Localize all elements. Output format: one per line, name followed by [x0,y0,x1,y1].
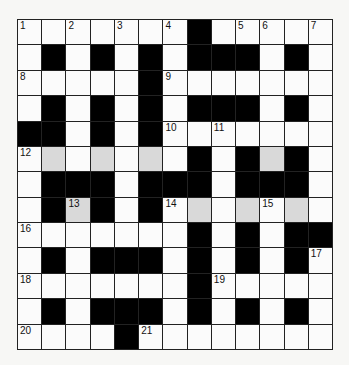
shaded-cell[interactable] [188,198,211,222]
answer-cell[interactable] [115,172,138,196]
answer-cell[interactable] [66,147,89,171]
answer-cell[interactable] [260,248,283,272]
answer-cell[interactable] [66,96,89,120]
answer-cell[interactable] [309,71,332,95]
answer-cell[interactable]: 9 [163,71,186,95]
answer-cell[interactable] [285,325,308,349]
answer-cell[interactable] [91,274,114,298]
answer-cell[interactable] [163,223,186,247]
answer-cell[interactable] [91,223,114,247]
answer-cell[interactable] [18,45,41,69]
answer-cell[interactable] [163,325,186,349]
answer-cell[interactable] [309,198,332,222]
answer-cell[interactable] [309,147,332,171]
answer-cell[interactable] [285,122,308,146]
answer-cell[interactable] [139,223,162,247]
answer-cell[interactable] [18,172,41,196]
answer-cell[interactable] [285,274,308,298]
answer-cell[interactable] [260,45,283,69]
answer-cell[interactable] [309,96,332,120]
answer-cell[interactable] [260,122,283,146]
answer-cell[interactable]: 18 [18,274,41,298]
answer-cell[interactable] [115,147,138,171]
answer-cell[interactable]: 11 [212,122,235,146]
answer-cell[interactable]: 14 [163,198,186,222]
answer-cell[interactable]: 5 [236,20,259,44]
answer-cell[interactable] [309,274,332,298]
answer-cell[interactable] [285,71,308,95]
answer-cell[interactable] [212,172,235,196]
answer-cell[interactable] [91,20,114,44]
answer-cell[interactable] [163,274,186,298]
answer-cell[interactable] [260,96,283,120]
shaded-cell[interactable] [139,147,162,171]
shaded-cell[interactable] [42,147,65,171]
answer-cell[interactable]: 1 [18,20,41,44]
answer-cell[interactable] [188,122,211,146]
answer-cell[interactable] [260,71,283,95]
answer-cell[interactable] [18,198,41,222]
answer-cell[interactable]: 6 [260,20,283,44]
answer-cell[interactable]: 20 [18,325,41,349]
answer-cell[interactable] [260,223,283,247]
shaded-cell[interactable] [285,198,308,222]
answer-cell[interactable] [115,274,138,298]
answer-cell[interactable] [115,198,138,222]
answer-cell[interactable] [212,147,235,171]
answer-cell[interactable] [212,20,235,44]
answer-cell[interactable]: 4 [163,20,186,44]
answer-cell[interactable]: 16 [18,223,41,247]
answer-cell[interactable] [236,274,259,298]
answer-cell[interactable] [309,172,332,196]
answer-cell[interactable] [115,71,138,95]
answer-cell[interactable] [212,198,235,222]
answer-cell[interactable] [163,248,186,272]
answer-cell[interactable] [212,223,235,247]
answer-cell[interactable] [66,325,89,349]
answer-cell[interactable]: 8 [18,71,41,95]
shaded-cell[interactable] [260,147,283,171]
answer-cell[interactable] [260,325,283,349]
shaded-cell[interactable] [236,198,259,222]
answer-cell[interactable]: 2 [66,20,89,44]
answer-cell[interactable] [309,299,332,323]
answer-cell[interactable] [18,248,41,272]
answer-cell[interactable] [139,20,162,44]
answer-cell[interactable] [139,274,162,298]
answer-cell[interactable] [42,71,65,95]
answer-cell[interactable]: 12 [18,147,41,171]
answer-cell[interactable] [66,45,89,69]
answer-cell[interactable] [309,45,332,69]
answer-cell[interactable] [18,299,41,323]
answer-cell[interactable] [163,45,186,69]
answer-cell[interactable]: 3 [115,20,138,44]
answer-cell[interactable] [115,45,138,69]
answer-cell[interactable] [309,325,332,349]
answer-cell[interactable] [260,299,283,323]
answer-cell[interactable] [163,299,186,323]
answer-cell[interactable] [236,71,259,95]
answer-cell[interactable] [42,325,65,349]
answer-cell[interactable] [66,274,89,298]
answer-cell[interactable] [91,325,114,349]
answer-cell[interactable] [260,274,283,298]
answer-cell[interactable] [188,71,211,95]
answer-cell[interactable] [42,223,65,247]
answer-cell[interactable]: 19 [212,274,235,298]
answer-cell[interactable] [309,122,332,146]
answer-cell[interactable] [115,96,138,120]
answer-cell[interactable] [18,96,41,120]
answer-cell[interactable] [42,274,65,298]
answer-cell[interactable] [66,248,89,272]
answer-cell[interactable] [212,248,235,272]
shaded-cell[interactable] [91,147,114,171]
answer-cell[interactable] [212,325,235,349]
answer-cell[interactable]: 10 [163,122,186,146]
answer-cell[interactable]: 7 [309,20,332,44]
answer-cell[interactable] [285,20,308,44]
answer-cell[interactable] [212,71,235,95]
answer-cell[interactable]: 17 [309,248,332,272]
answer-cell[interactable] [115,223,138,247]
answer-cell[interactable] [91,71,114,95]
answer-cell[interactable] [212,299,235,323]
